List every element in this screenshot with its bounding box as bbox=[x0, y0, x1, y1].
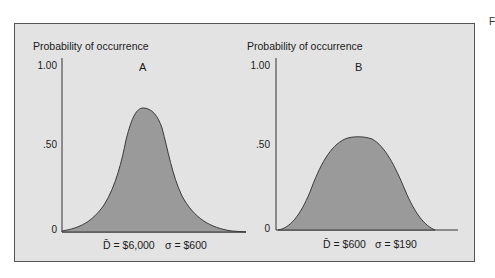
chart-b-tick-1: 1.00 bbox=[246, 60, 270, 71]
chart-b-tick-050: .50 bbox=[246, 139, 270, 150]
chart-a-title: A bbox=[139, 61, 146, 73]
chart-b-curve bbox=[278, 137, 435, 230]
chart-a-tick-1: 1.00 bbox=[33, 60, 57, 71]
chart-a-curve bbox=[62, 108, 246, 232]
cropped-edge-text: F bbox=[489, 16, 495, 27]
chart-b-ylabel: Probability of occurrence bbox=[247, 40, 363, 52]
chart-b-sigma-caption: σ = $190 bbox=[375, 238, 417, 250]
chart-b-mean-caption: D̄ = $600 bbox=[323, 238, 366, 250]
chart-a-mean-caption: D̄ = $6,000 bbox=[103, 239, 155, 251]
chart-b-tick-0: 0 bbox=[246, 223, 270, 234]
chart-a-ylabel: Probability of occurrence bbox=[33, 40, 149, 52]
chart-b-title: B bbox=[355, 61, 362, 73]
chart-a-sigma-caption: σ = $600 bbox=[165, 239, 207, 251]
chart-a-tick-050: .50 bbox=[33, 139, 57, 150]
chart-a-tick-0: 0 bbox=[33, 224, 57, 235]
